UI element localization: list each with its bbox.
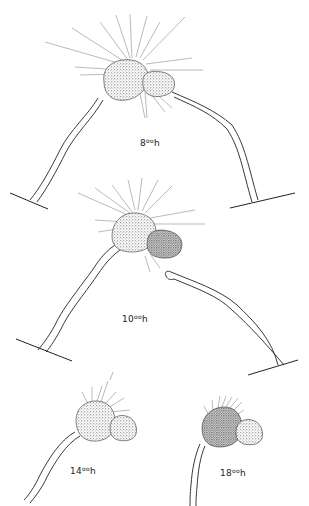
time-label-8h: 8ooh — [140, 137, 160, 148]
time-label-18h: 18ooh — [220, 467, 246, 478]
panel-8h — [10, 14, 295, 209]
drawing-canvas — [0, 0, 309, 506]
panel-14h — [24, 372, 137, 503]
panel-18h — [190, 396, 263, 506]
panel-10h — [16, 178, 298, 375]
time-label-14h: 14ooh — [70, 465, 96, 476]
illustration-figure: 8ooh 10ooh 14ooh 18ooh — [0, 0, 309, 506]
time-label-10h: 10ooh — [122, 313, 148, 324]
